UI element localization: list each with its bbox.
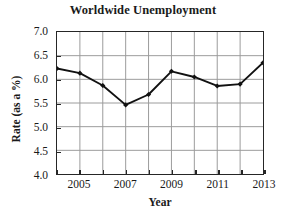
x-tick-label: 2011 xyxy=(206,178,229,190)
plot-area xyxy=(56,31,264,175)
y-tick-mark xyxy=(57,152,61,153)
y-tick-label: 7.0 xyxy=(34,25,48,37)
x-tick-mark xyxy=(79,170,81,174)
data-point xyxy=(215,83,220,88)
x-tick-label: 2005 xyxy=(68,178,91,190)
y-tick-label: 6.5 xyxy=(34,49,48,61)
x-tick-mark xyxy=(126,170,128,174)
x-tick-mark xyxy=(56,170,58,174)
data-point xyxy=(57,66,60,71)
y-tick-label: 5.0 xyxy=(34,121,48,133)
y-tick-label: 5.5 xyxy=(34,97,48,109)
x-tick-mark xyxy=(264,170,266,174)
x-tick-label: 2013 xyxy=(253,178,276,190)
y-tick-mark xyxy=(57,56,61,57)
x-axis-tick-labels: 20052007200920112013 xyxy=(56,178,264,194)
y-axis-tick-labels: 7.06.56.05.55.04.54.0 xyxy=(0,31,52,175)
data-series-unemployment-rate xyxy=(57,32,263,174)
y-tick-label: 6.0 xyxy=(34,73,48,85)
chart-title: Worldwide Unemployment xyxy=(0,3,286,18)
x-tick-mark xyxy=(241,170,243,174)
y-tick-label: 4.5 xyxy=(34,145,48,157)
y-tick-label: 4.0 xyxy=(34,169,48,181)
x-tick-mark xyxy=(149,170,151,174)
x-tick-mark xyxy=(103,170,105,174)
x-tick-mark xyxy=(172,170,174,174)
x-tick-mark xyxy=(218,170,220,174)
y-tick-mark xyxy=(57,104,61,105)
x-tick-label: 2007 xyxy=(114,178,137,190)
x-axis-title: Year xyxy=(56,196,264,208)
chart-figure: Worldwide Unemployment Rate (as a %) 7.0… xyxy=(0,0,286,224)
x-tick-mark xyxy=(195,170,197,174)
y-tick-mark xyxy=(57,80,61,81)
y-tick-mark xyxy=(57,128,61,129)
data-point xyxy=(192,74,197,79)
x-tick-label: 2009 xyxy=(160,178,183,190)
